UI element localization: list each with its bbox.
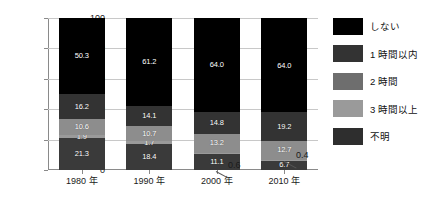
legend-item[interactable]: 不明 xyxy=(333,124,429,148)
bar-segment[interactable]: 50.3 xyxy=(59,18,105,94)
bar-segment[interactable]: 21.3 xyxy=(59,138,105,170)
bar-group: 21.31.910.616.250.318.41.710.714.161.211… xyxy=(48,18,318,170)
stacked-bar-chart: 100806040200 21.31.910.616.250.318.41.71… xyxy=(0,0,431,215)
bar-segment[interactable]: 64.0 xyxy=(194,18,240,112)
legend-swatch xyxy=(333,45,363,62)
legend-label: 2 時間 xyxy=(370,74,398,88)
bar-segment-label: 14.1 xyxy=(142,112,156,120)
bar-segment-label: 12.7 xyxy=(277,146,291,154)
bar-column[interactable]: 11.10.613.214.864.0 xyxy=(194,18,240,170)
bar-segment[interactable]: 1.7 xyxy=(126,141,172,144)
bar-segment-label: 50.3 xyxy=(75,52,89,60)
legend-swatch xyxy=(333,128,363,145)
bar-segment[interactable]: 10.6 xyxy=(59,119,105,135)
bar-segment[interactable]: 1.9 xyxy=(59,135,105,138)
legend-swatch xyxy=(333,100,363,117)
bar-segment-label: 16.2 xyxy=(75,103,89,111)
bar-segment-label: 21.3 xyxy=(75,150,89,158)
legend-item[interactable]: 1 時間以内 xyxy=(333,42,429,66)
x-axis-tick-label: 2010 年 xyxy=(253,174,315,187)
legend-swatch xyxy=(333,73,363,90)
bar-segment[interactable]: 10.7 xyxy=(126,126,172,141)
bar-segment-label: 11.1 xyxy=(210,158,223,166)
legend-swatch xyxy=(333,18,363,35)
bar-segment-label: 10.6 xyxy=(75,123,89,131)
x-axis: 1980 年1990 年2000 年2010 年 xyxy=(48,174,318,192)
bar-segment-label: 19.2 xyxy=(277,123,291,131)
legend-item[interactable]: 3 時間以上 xyxy=(333,97,429,121)
bar-segment[interactable]: 0.6 xyxy=(194,153,240,154)
legend-label: 3 時間以上 xyxy=(370,102,418,116)
callout-label: 0.6 xyxy=(228,160,241,170)
legend-item[interactable]: 2 時間 xyxy=(333,69,429,93)
bar-segment[interactable]: 16.2 xyxy=(59,94,105,119)
callout-label: 0.4 xyxy=(296,150,309,160)
legend: しない1 時間以内2 時間3 時間以上不明 xyxy=(333,14,429,152)
bar-segment-label: 64.0 xyxy=(210,61,224,69)
bar-segment-label: 10.7 xyxy=(142,130,156,138)
bar-column[interactable]: 21.31.910.616.250.3 xyxy=(59,18,105,170)
bar-segment-label: 18.4 xyxy=(142,153,156,161)
bar-segment[interactable]: 19.2 xyxy=(261,112,307,140)
legend-label: しない xyxy=(370,19,400,33)
bar-segment[interactable]: 61.2 xyxy=(126,18,172,106)
x-axis-tick-label: 2000 年 xyxy=(186,174,248,187)
bar-segment-label: 13.2 xyxy=(210,139,224,147)
legend-item[interactable]: しない xyxy=(333,14,429,38)
bar-segment[interactable]: 14.1 xyxy=(126,106,172,126)
bar-segment[interactable]: 18.4 xyxy=(126,144,172,170)
x-axis-tick-label: 1980 年 xyxy=(51,174,113,187)
plot-area: 21.31.910.616.250.318.41.710.714.161.211… xyxy=(48,18,318,170)
legend-label: 不明 xyxy=(370,129,390,143)
y-axis-tick-mark xyxy=(44,170,48,171)
bar-column[interactable]: 6.70.412.719.264.0 xyxy=(261,18,307,170)
bar-segment-label: 14.8 xyxy=(210,119,224,127)
bar-segment-label: 61.2 xyxy=(142,58,156,66)
x-axis-tick-label: 1990 年 xyxy=(118,174,180,187)
bar-segment[interactable]: 64.0 xyxy=(261,18,307,112)
legend-label: 1 時間以内 xyxy=(370,47,418,61)
bar-column[interactable]: 18.41.710.714.161.2 xyxy=(126,18,172,170)
bar-segment[interactable]: 14.8 xyxy=(194,112,240,134)
bar-segment-label: 64.0 xyxy=(277,62,291,70)
bar-segment[interactable]: 13.2 xyxy=(194,134,240,153)
